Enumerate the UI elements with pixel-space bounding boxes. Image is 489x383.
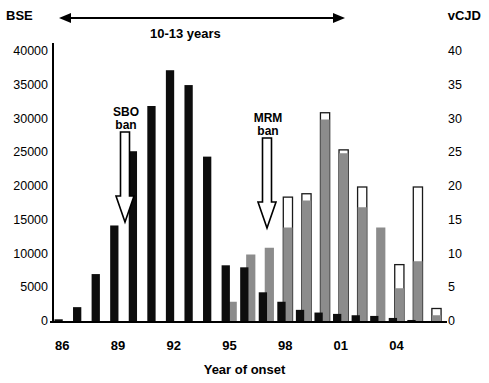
vcjd-bar xyxy=(320,120,329,323)
bse-bar xyxy=(296,310,304,322)
vcjd-bar xyxy=(413,261,422,322)
bse-bar xyxy=(314,313,322,322)
bse-bar xyxy=(240,267,248,322)
bse-bar xyxy=(277,302,285,322)
plot-canvas xyxy=(0,0,489,383)
bse-bar xyxy=(110,225,118,322)
span-arrow-head-right xyxy=(333,13,345,23)
vcjd-bar xyxy=(339,153,348,322)
chart-figure: BSE vCJD 10-13 years SBO ban MRM ban 050… xyxy=(0,0,489,383)
bse-bar xyxy=(203,157,211,322)
x-tick-label: 92 xyxy=(154,338,194,353)
bse-bar xyxy=(73,307,81,322)
x-tick-label: 01 xyxy=(321,338,361,353)
mrm-ban-arrow xyxy=(258,138,276,228)
bse-bar xyxy=(259,292,267,322)
bse-bar xyxy=(333,314,341,322)
vcjd-bar xyxy=(376,228,385,323)
vcjd-bar xyxy=(358,207,367,322)
x-axis-title: Year of onset xyxy=(0,362,489,377)
vcjd-bar xyxy=(395,288,404,322)
bse-bar xyxy=(222,265,230,322)
x-tick-label: 89 xyxy=(98,338,138,353)
x-tick-label: 95 xyxy=(209,338,249,353)
bse-bar xyxy=(184,85,192,322)
bse-bar xyxy=(92,274,100,322)
bse-bar xyxy=(147,106,155,322)
span-arrow-head-left xyxy=(59,13,71,23)
bse-bar xyxy=(166,70,174,322)
bars-layer xyxy=(54,70,441,322)
vcjd-bar xyxy=(302,201,311,323)
x-tick-label: 98 xyxy=(265,338,305,353)
x-tick-label: 04 xyxy=(377,338,417,353)
x-tick-label: 86 xyxy=(42,338,82,353)
